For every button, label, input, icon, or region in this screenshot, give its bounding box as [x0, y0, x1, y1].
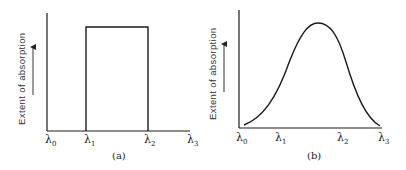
panel-a: Extent of absorption λ0 λ1 λ2 λ3 (a)	[16, 13, 198, 161]
tick-lambda1: λ1	[275, 131, 286, 146]
tick-lambda3: λ3	[378, 131, 389, 146]
absorption-diagram: Extent of absorption λ0 λ1 λ2 λ3 (a) Ext…	[0, 0, 406, 170]
caption-a: (a)	[112, 150, 126, 161]
y-axis-label: Extent of absorption	[207, 28, 218, 121]
y-axis-label: Extent of absorption	[16, 33, 27, 126]
tick-lambda0: λ0	[236, 131, 247, 146]
rectangular-band	[86, 27, 148, 131]
bell-curve	[244, 23, 380, 126]
panel-b: Extent of absorption λ0 λ1 λ2 λ3 (b)	[207, 10, 389, 161]
tick-lambda2: λ2	[144, 133, 155, 148]
tick-lambda3: λ3	[187, 133, 198, 148]
caption-b: (b)	[307, 150, 321, 161]
tick-lambda0: λ0	[45, 133, 56, 148]
tick-lambda1: λ1	[84, 133, 95, 148]
tick-lambda2: λ2	[337, 131, 348, 146]
